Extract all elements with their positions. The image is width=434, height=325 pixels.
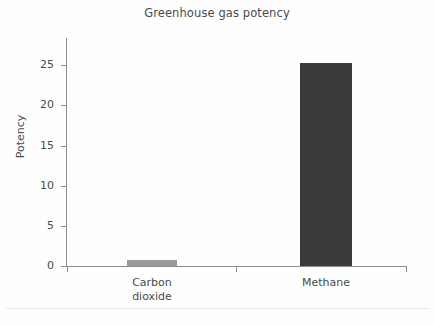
bar-carbon-dioxide: [127, 260, 177, 266]
y-tick-0: [61, 266, 66, 267]
plot-area: [67, 38, 407, 266]
x-label-carbon-dioxide: Carbon dioxide: [87, 276, 217, 304]
x-label-carbon-dioxide-line2: dioxide: [87, 290, 217, 304]
x-tick-left: [67, 267, 68, 272]
chart-title: Greenhouse gas potency: [0, 6, 434, 20]
y-tick-label-10: 10: [14, 180, 54, 191]
x-label-methane: Methane: [261, 276, 391, 290]
y-tick-20: [61, 105, 66, 106]
y-tick-label-5: 5: [14, 220, 54, 231]
scan-artifact-line: [6, 308, 430, 309]
y-tick-5: [61, 226, 66, 227]
y-tick-label-25: 25: [14, 59, 54, 70]
bar-methane: [300, 63, 352, 266]
x-label-methane-line1: Methane: [261, 276, 391, 290]
chart-figure: Greenhouse gas potency 0 5 10 15 20 25 P…: [0, 0, 434, 325]
x-tick-middle: [236, 267, 237, 272]
y-tick-10: [61, 186, 66, 187]
y-tick-label-0: 0: [14, 260, 54, 271]
y-axis-title: Potency: [14, 92, 27, 182]
x-label-carbon-dioxide-line1: Carbon: [87, 276, 217, 290]
x-tick-right: [406, 267, 407, 272]
y-tick-25: [61, 65, 66, 66]
y-tick-15: [61, 146, 66, 147]
